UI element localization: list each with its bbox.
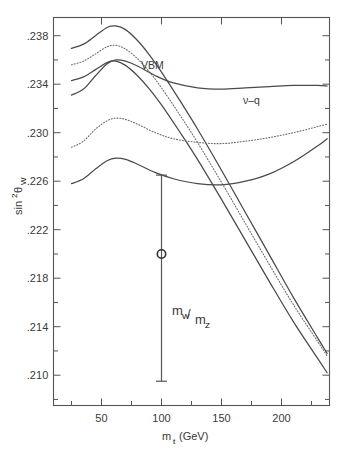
y-axis-label-subscript: W: [19, 177, 28, 185]
nu-q-label: ν–q: [243, 94, 260, 106]
y-tick-label: .226: [27, 175, 49, 187]
y-tick-label: .222: [27, 224, 49, 236]
curve-solid: [72, 26, 328, 354]
error-bar-group: [156, 175, 167, 381]
x-tick-label: 50: [95, 412, 107, 424]
y-axis-label-theta: θ: [12, 187, 24, 193]
x-axis-ticks: [72, 18, 312, 406]
figure-panel: .238.234.230.226.222.218.214.210 5010015…: [0, 0, 348, 459]
y-axis-ticks: [54, 36, 330, 400]
plot-svg: .238.234.230.226.222.218.214.210 5010015…: [0, 0, 348, 459]
y-tick-label: .218: [27, 272, 49, 284]
mw-mz-denominator-sub: Z: [205, 321, 210, 330]
x-axis-label-unit: (GeV): [179, 430, 208, 442]
x-axis-label-base: m: [162, 430, 171, 442]
y-tick-label: .238: [27, 30, 49, 42]
vbm-label: VBM: [141, 59, 164, 71]
y-tick-label: .234: [27, 78, 49, 90]
x-tick-label: 100: [152, 412, 171, 424]
y-axis-tick-labels: .238.234.230.226.222.218.214.210: [27, 30, 49, 382]
mw-mz-label: m W / m Z: [172, 303, 210, 330]
y-axis-label: sin 2 θ W: [10, 177, 28, 215]
x-tick-label: 200: [272, 412, 291, 424]
y-tick-label: .214: [27, 321, 49, 333]
y-tick-label: .210: [27, 369, 49, 381]
curve-dotted: [72, 45, 328, 356]
x-axis-label-subscript: t: [173, 437, 176, 446]
curve-solid: [72, 60, 328, 95]
x-tick-label: 150: [212, 412, 231, 424]
y-axis-label-base: sin: [12, 201, 24, 215]
y-tick-label: .230: [27, 127, 49, 139]
x-axis-label: m t (GeV): [162, 430, 208, 446]
x-axis-tick-labels: 50100150200: [95, 412, 291, 424]
mw-mz-slash: /: [187, 306, 191, 321]
